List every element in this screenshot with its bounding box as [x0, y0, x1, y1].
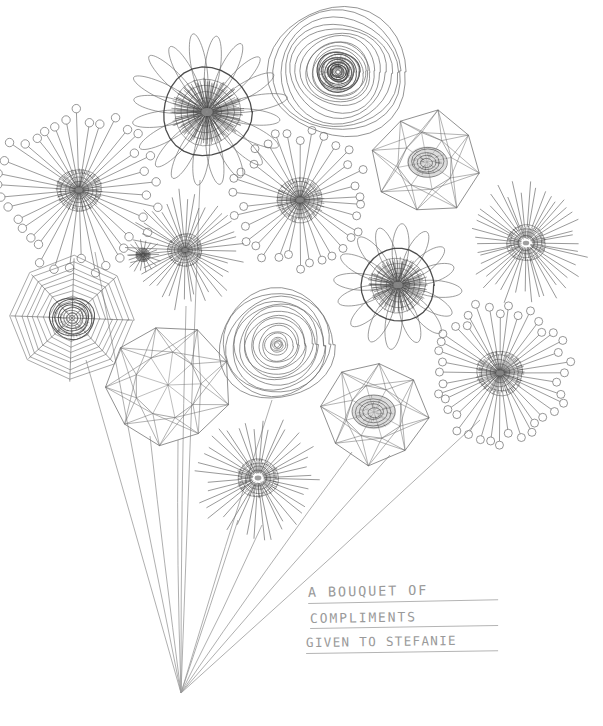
star-ray [227, 493, 249, 530]
pin-tip-circle [120, 244, 128, 252]
pin-ray [516, 342, 559, 364]
caption-line-3: GIVEN TO STEFANIE [306, 634, 498, 653]
star-ray [175, 264, 183, 310]
flowers-layer [0, 6, 588, 540]
pin-tip-circle [528, 428, 536, 436]
pin-tip-circle [353, 212, 361, 220]
pin-tip-circle [495, 441, 503, 449]
pin-tip-circle [241, 222, 249, 230]
pin-ray [257, 167, 285, 189]
pin-tip-circle [275, 253, 283, 261]
pin-tip-circle [560, 399, 568, 407]
netpoly-chord [159, 404, 192, 445]
core-dot [496, 370, 504, 376]
pin-tip-circle [437, 338, 445, 346]
star-ray [272, 487, 304, 507]
star-ray [142, 234, 171, 245]
pin-ray [90, 204, 121, 245]
pin-tip-circle [356, 193, 364, 201]
netpoly-chord [175, 405, 229, 418]
pin-tip-circle [116, 254, 124, 262]
pin-ray [258, 152, 288, 186]
pin-tip-circle [296, 137, 304, 145]
flower-pinwheel-dandelion-center [229, 126, 367, 273]
star-ray [208, 479, 241, 482]
pin-ray [518, 362, 567, 370]
pin-tip-circle [441, 395, 449, 403]
pin-tip-circle [264, 140, 272, 148]
pin-tip-circle [504, 429, 512, 437]
pin-tip-circle [62, 116, 70, 124]
netpoly-chord [321, 400, 353, 406]
pin-tip-circle [453, 411, 461, 419]
core-scribble-line [301, 183, 314, 198]
pin-ray [515, 384, 551, 410]
star-ray [262, 495, 272, 540]
star-ray [508, 197, 520, 228]
netpoly-chord [198, 384, 201, 434]
netpoly-spoke [136, 385, 168, 398]
pin-ray [306, 140, 322, 183]
netpoly-chord [422, 110, 439, 133]
pin-ray [449, 381, 483, 397]
pin-tip-circle [40, 127, 48, 135]
core-dot [296, 197, 304, 203]
spiral-ring [223, 294, 331, 397]
pin-ray [443, 372, 481, 373]
pin-tip-circle [496, 310, 504, 318]
pin-tip-circle [560, 369, 568, 377]
stem-to-pin-upper-left [95, 252, 181, 693]
netpoly-chord [201, 361, 227, 383]
star-ray [186, 199, 188, 235]
flower-starburst-right [472, 181, 588, 302]
star-ray [275, 482, 309, 489]
caption: A BOUQUET OF COMPLIMENTS GIVEN TO STEFAN… [308, 586, 498, 661]
netpoly-spoke [151, 358, 168, 385]
netpoly-chord [342, 372, 367, 386]
pin-tip-circle [102, 261, 110, 269]
pin-tip-circle [111, 114, 119, 122]
netpoly-spoke [168, 352, 173, 385]
pin-tip-circle [140, 167, 148, 175]
netpoly-chord [400, 418, 429, 426]
star-ray [195, 213, 222, 239]
pin-tip-circle [526, 307, 534, 315]
netpoly-chord [193, 404, 198, 433]
star-ray [516, 259, 523, 293]
netpoly-chord [411, 185, 417, 210]
flower-net-polygon-bottom-center [321, 364, 429, 466]
pin-tip-circle [72, 104, 80, 112]
web-spoke [70, 318, 72, 382]
pin-tip-circle [308, 126, 316, 134]
stem-to-netpoly-lower-left-b [178, 440, 181, 693]
star-ray [266, 493, 282, 522]
star-ray [475, 237, 510, 241]
spiral-ring [267, 6, 406, 136]
netpoly-chord [400, 426, 405, 450]
star-ray [528, 259, 532, 302]
pin-tip-circle [485, 303, 493, 311]
netpoly-chord [151, 330, 197, 358]
netpoly-chord [379, 364, 386, 390]
pin-tip-circle [538, 328, 546, 336]
pin-tip-circle [283, 130, 291, 138]
netpoly-chord [151, 328, 156, 358]
pin-ray [56, 131, 72, 174]
netpoly-chord [191, 361, 226, 364]
pin-tip-circle [35, 259, 43, 267]
pin-tip-circle [34, 240, 42, 248]
netpoly-chord [335, 400, 352, 443]
pin-tip-circle [152, 178, 160, 186]
pin-ray [237, 193, 282, 198]
star-ray [133, 240, 171, 247]
pin-tip-circle [318, 256, 326, 264]
netpoly-chord [175, 418, 198, 434]
pin-ray [470, 389, 491, 431]
netpoly-chord [366, 364, 379, 386]
pin-tip-circle [554, 348, 562, 356]
netpoly-chord [450, 173, 479, 178]
netpoly-chord [368, 426, 400, 466]
star-ray [537, 255, 566, 288]
pin-tip-circle [539, 413, 547, 421]
pin-tip-circle [438, 358, 446, 366]
